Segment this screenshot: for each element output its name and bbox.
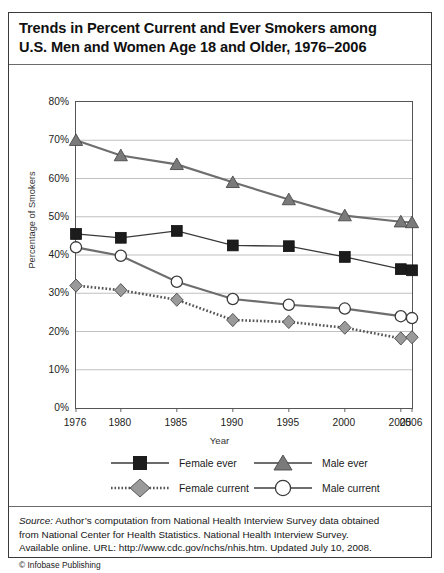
y-tick-label: 60% xyxy=(27,172,69,183)
series-canvas xyxy=(76,102,412,408)
legend-label-male-current: Male current xyxy=(322,483,380,494)
data-point xyxy=(115,250,126,261)
chart-title-box: Trends in Percent Current and Ever Smoke… xyxy=(9,13,431,65)
series-male-current xyxy=(70,242,417,324)
data-point xyxy=(283,299,294,310)
y-tick-label: 20% xyxy=(27,325,69,336)
x-tick-label: 1990 xyxy=(220,417,243,428)
x-tick-label: 1976 xyxy=(64,417,87,428)
y-tick-label: 40% xyxy=(27,249,69,260)
data-point xyxy=(283,241,294,252)
chart-title-line-1: Trends in Percent Current and Ever Smoke… xyxy=(19,19,421,38)
data-point xyxy=(395,311,406,322)
data-point xyxy=(339,303,350,314)
data-point xyxy=(171,276,182,287)
data-point xyxy=(339,321,351,334)
legend-item-female-current[interactable]: Female current xyxy=(109,477,249,499)
source-note: Source: Author’s computation from Nation… xyxy=(9,506,431,557)
data-point xyxy=(227,293,238,304)
x-tick-label: 1985 xyxy=(164,417,187,428)
legend-item-female-ever[interactable]: Female ever xyxy=(109,452,237,474)
data-point xyxy=(395,332,407,345)
data-point xyxy=(71,229,82,240)
publisher-credit: © Infobase Publishing xyxy=(19,560,421,570)
source-keyword: Source: xyxy=(19,515,53,526)
y-tick-label: 50% xyxy=(27,210,69,221)
legend-marker-female-ever xyxy=(109,453,171,473)
data-point xyxy=(69,134,82,146)
data-point xyxy=(406,331,418,344)
data-point xyxy=(171,293,183,306)
data-point xyxy=(70,279,82,292)
data-point xyxy=(171,226,182,237)
legend-marker-male-current xyxy=(252,478,314,498)
source-line-1: Source: Author’s computation from Nation… xyxy=(19,514,421,528)
data-point xyxy=(283,315,295,328)
data-point xyxy=(115,232,126,243)
data-point xyxy=(70,242,81,253)
y-tick-label: 70% xyxy=(27,134,69,145)
legend-item-male-ever[interactable]: Male ever xyxy=(252,452,368,474)
figure-panel: Trends in Percent Current and Ever Smoke… xyxy=(8,12,432,558)
chart-title-line-2: U.S. Men and Women Age 18 and Older, 197… xyxy=(19,38,421,57)
legend-marker-male-ever xyxy=(252,453,314,473)
data-point xyxy=(227,240,238,251)
data-point xyxy=(406,313,417,324)
legend-label-male-ever: Male ever xyxy=(322,458,368,469)
chart-legend: Female ever Male ever Female current Mal… xyxy=(9,450,430,506)
data-point xyxy=(227,313,239,326)
data-point xyxy=(115,284,127,297)
series-line xyxy=(76,140,412,222)
chart-region: Percentage of Smokers 0%10%20%30%40%50%6… xyxy=(9,65,430,450)
series-male-ever xyxy=(69,134,418,228)
legend-label-female-ever: Female ever xyxy=(179,458,237,469)
data-point xyxy=(407,265,418,276)
x-tick-label: 1995 xyxy=(276,417,299,428)
x-tick-label: 2000 xyxy=(332,417,355,428)
x-axis-label: Year xyxy=(9,435,430,446)
data-point xyxy=(395,264,406,275)
legend-label-female-current: Female current xyxy=(179,483,249,494)
source-line-3: Available online. URL: http://www.cdc.go… xyxy=(19,541,421,555)
source-text-1: Author’s computation from National Healt… xyxy=(53,515,379,526)
y-tick-label: 30% xyxy=(27,287,69,298)
plot-area xyxy=(75,101,413,409)
x-tick-label: 1980 xyxy=(108,417,131,428)
legend-marker-female-current xyxy=(109,478,171,498)
source-line-2: from National Center for Health Statisti… xyxy=(19,528,421,542)
y-tick-label: 0% xyxy=(27,402,69,413)
y-tick-label: 10% xyxy=(27,363,69,374)
y-tick-label: 80% xyxy=(27,96,69,107)
data-point xyxy=(339,252,350,263)
x-tick-label: 2006 xyxy=(400,417,423,428)
legend-item-male-current[interactable]: Male current xyxy=(252,477,380,499)
